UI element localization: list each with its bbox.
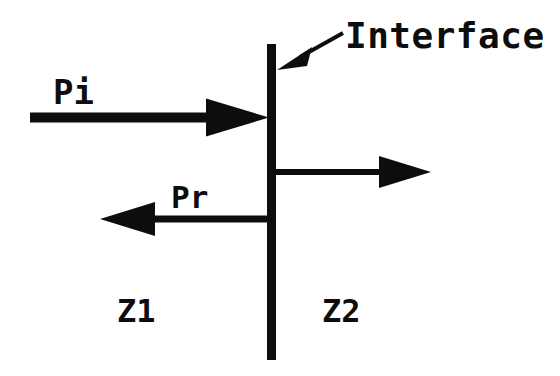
transmitted-arrow-shaft [274, 169, 382, 175]
reflected-wave-label: Pr [171, 179, 208, 215]
interface-diagram: Pi Pr Z1 Z2 Interface [0, 0, 560, 376]
incident-arrow-shaft [30, 113, 208, 123]
background [0, 0, 560, 376]
medium-right-impedance-label: Z2 [322, 292, 361, 330]
diagram-canvas: Pi Pr Z1 Z2 Interface [0, 0, 560, 376]
interface-line [267, 44, 276, 360]
incident-wave-label: Pi [53, 72, 94, 112]
reflected-arrow-shaft [152, 216, 271, 223]
interface-label: Interface [345, 15, 545, 56]
medium-left-impedance-label: Z1 [117, 292, 156, 330]
